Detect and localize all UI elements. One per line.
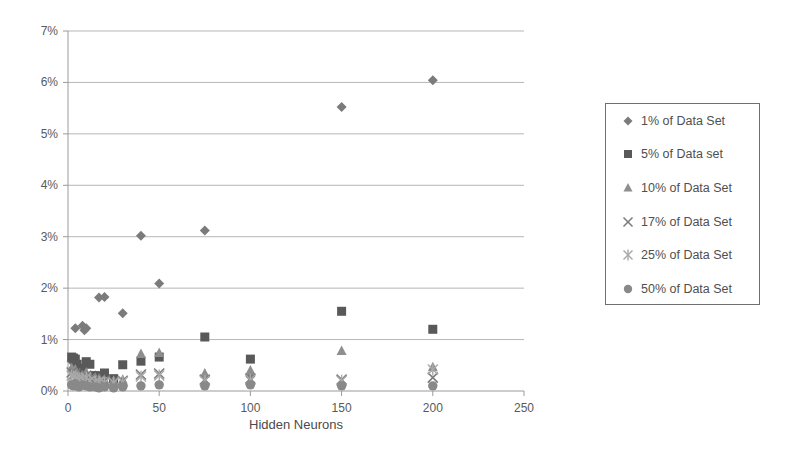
legend-item[interactable]: 50% of Data Set (606, 272, 759, 306)
data-point (200, 381, 209, 390)
data-point (337, 307, 346, 316)
data-point (136, 357, 145, 366)
square-marker-icon (620, 146, 636, 162)
x-tick-label: 200 (423, 401, 443, 415)
data-point (136, 371, 146, 383)
y-tick-label: 2% (41, 281, 59, 295)
chart-legend: 1% of Data Set5% of Data set10% of Data … (605, 103, 760, 305)
data-point (136, 381, 145, 390)
x-axis-title: Hidden Neurons (249, 417, 343, 432)
x-tick-label: 150 (332, 401, 352, 415)
data-point (428, 75, 438, 85)
data-point (136, 348, 146, 358)
data-point (154, 279, 164, 289)
data-point (155, 380, 164, 389)
y-tick-label: 5% (41, 127, 59, 141)
data-point (337, 381, 346, 390)
data-point (109, 383, 118, 392)
x-tick-label: 250 (514, 401, 534, 415)
data-point (154, 347, 164, 357)
diamond-marker-icon (620, 113, 636, 129)
data-point (245, 365, 255, 375)
legend-item-label: 25% of Data Set (641, 248, 732, 262)
series-1 (67, 75, 438, 384)
legend-item-label: 1% of Data Set (641, 114, 725, 128)
legend-item[interactable]: 5% of Data set (606, 138, 759, 172)
y-tick-label: 7% (41, 24, 59, 38)
legend-item-label: 17% of Data Set (641, 215, 732, 229)
legend-item[interactable]: 17% of Data Set (606, 205, 759, 239)
y-tick-marks (63, 31, 68, 391)
data-point (200, 333, 209, 342)
legend-item[interactable]: 10% of Data Set (606, 171, 759, 205)
data-point (118, 360, 127, 369)
scatter-chart: 0%1%2%3%4%5%6%7% 050100150200250 Hidden … (0, 0, 803, 469)
x-tick-label: 100 (240, 401, 260, 415)
legend-item-label: 50% of Data Set (641, 282, 732, 296)
data-points (67, 75, 438, 392)
data-point (136, 231, 146, 241)
data-point (200, 226, 210, 236)
legend-item[interactable]: 25% of Data Set (606, 238, 759, 272)
legend-item[interactable]: 1% of Data Set (606, 104, 759, 138)
data-point (154, 370, 164, 382)
data-point (100, 382, 109, 391)
data-point (246, 355, 255, 364)
star-marker-icon (620, 247, 636, 263)
legend-item-label: 5% of Data set (641, 147, 723, 161)
data-point (428, 381, 437, 390)
legend-item-label: 10% of Data Set (641, 181, 732, 195)
x-tick-marks (68, 391, 524, 396)
data-point (428, 325, 437, 334)
y-tick-label: 1% (41, 333, 59, 347)
circle-marker-icon (620, 281, 636, 297)
data-point (118, 382, 127, 391)
cross-marker-icon (620, 214, 636, 230)
x-axis-tick-labels: 050100150200250 (65, 401, 535, 415)
data-point (337, 345, 347, 355)
y-axis-tick-labels: 0%1%2%3%4%5%6%7% (41, 24, 59, 398)
data-point (337, 102, 347, 112)
y-tick-label: 6% (41, 75, 59, 89)
data-point (85, 360, 94, 369)
x-tick-label: 50 (153, 401, 167, 415)
x-tick-label: 0 (65, 401, 72, 415)
triangle-marker-icon (620, 180, 636, 196)
gridlines (68, 31, 524, 391)
y-tick-label: 0% (41, 384, 59, 398)
y-tick-label: 3% (41, 230, 59, 244)
data-point (118, 308, 128, 318)
data-point (246, 380, 255, 389)
y-tick-label: 4% (41, 178, 59, 192)
